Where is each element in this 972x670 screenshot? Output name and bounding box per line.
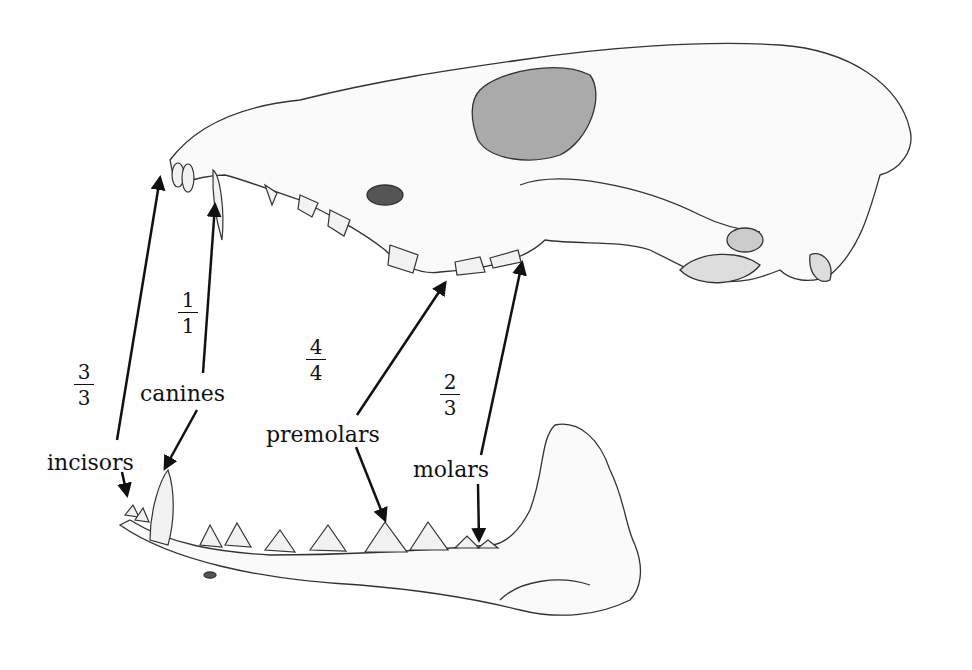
lower-teeth [125, 470, 498, 552]
molar-upper-count: 2 [440, 372, 460, 395]
label-incisors: incisors [47, 452, 134, 474]
mandible [120, 424, 640, 615]
label-molars: molars [413, 459, 489, 481]
skull-illustration [0, 0, 972, 670]
incisor-lower-count: 3 [74, 385, 94, 408]
incisor-formula: 3 3 [74, 362, 94, 408]
canine-upper-count: 1 [178, 290, 198, 313]
incisor-upper-count: 3 [74, 362, 94, 385]
molar-formula: 2 3 [440, 372, 460, 418]
premolar-upper-count: 4 [306, 337, 326, 360]
premolar-lower-count: 4 [306, 360, 326, 383]
cranium [170, 43, 911, 282]
label-premolars: premolars [266, 424, 380, 446]
label-canines: canines [140, 383, 225, 405]
canine-lower-count: 1 [178, 313, 198, 336]
canine-formula: 1 1 [178, 290, 198, 336]
molar-lower-count: 3 [440, 395, 460, 418]
premolar-formula: 4 4 [306, 337, 326, 383]
